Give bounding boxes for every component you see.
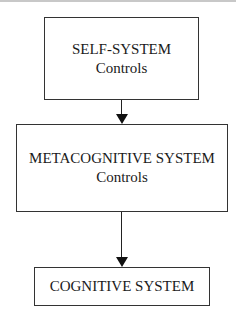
cognitive-system-box: COGNITIVE SYSTEM <box>34 267 210 306</box>
self-system-subtitle: Controls <box>96 59 148 78</box>
metacognitive-system-box: METACOGNITIVE SYSTEM Controls <box>16 124 228 212</box>
arrow-down-icon <box>116 257 128 267</box>
cognitive-system-title: COGNITIVE SYSTEM <box>50 277 195 296</box>
arrow-down-icon <box>116 114 128 124</box>
self-system-title: SELF-SYSTEM <box>72 40 171 59</box>
connector-meta-to-cog <box>121 212 122 258</box>
connector-self-to-meta <box>121 100 122 115</box>
metacognitive-system-title: METACOGNITIVE SYSTEM <box>29 149 215 168</box>
top-divider <box>0 0 236 2</box>
self-system-box: SELF-SYSTEM Controls <box>44 17 199 100</box>
metacognitive-system-subtitle: Controls <box>96 168 148 187</box>
